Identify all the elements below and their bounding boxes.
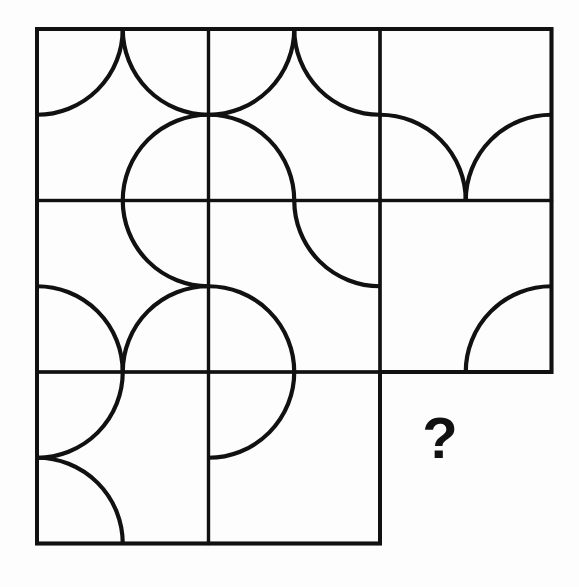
missing-cell-marker-layer: ?: [422, 405, 457, 470]
cell-r2c1-box: [37, 201, 209, 373]
cell-r1c3-box: [380, 29, 552, 201]
arc-decorations-layer: [37, 29, 552, 544]
cell-r1c3-arc-bottom-left: [380, 115, 466, 201]
cell-r1c2-arc-top-left: [209, 29, 295, 115]
cell-r2c1-arc-top-right: [123, 201, 209, 287]
grid-lines-layer: [37, 29, 552, 544]
cell-r2c2-arc-top-right: [294, 201, 380, 287]
puzzle-canvas: ?: [0, 0, 579, 587]
cell-r3c1-box: [37, 372, 209, 544]
cell-r3c2-box: [209, 372, 381, 544]
cell-r1c1-box: [37, 29, 209, 201]
cell-r2c2-arc-bottom-left: [209, 286, 295, 372]
cell-r2c3-box: [380, 201, 552, 373]
cell-r2c1-arc-bottom-left: [37, 286, 123, 372]
cell-r1c3-arc-bottom-right: [466, 115, 552, 201]
question-mark-label: ?: [422, 405, 457, 470]
cell-r1c1-arc-top-left: [37, 29, 123, 115]
cell-r3c1-arc-bottom-left: [37, 458, 123, 544]
cell-r1c1-arc-top-right: [123, 29, 209, 115]
cell-r2c1-arc-bottom-right: [123, 286, 209, 372]
cell-r2c3-arc-bottom-right: [466, 286, 552, 372]
cell-r1c2-arc-top-right: [294, 29, 380, 115]
cell-r2c2-box: [209, 201, 381, 373]
cell-r3c2-arc-top-left: [209, 372, 295, 458]
cell-r1c2-arc-bottom-left: [209, 115, 295, 201]
cell-r1c2-box: [209, 29, 381, 201]
cell-r1c1-arc-bottom-right: [123, 115, 209, 201]
cell-r3c1-arc-top-left: [37, 372, 123, 458]
matrix-puzzle-figure: ?: [0, 0, 579, 587]
puzzle-outer-border: [37, 29, 552, 544]
